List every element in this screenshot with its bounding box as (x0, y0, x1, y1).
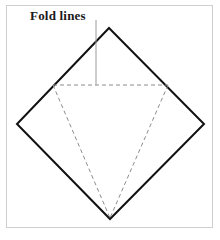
figure-container: Fold lines (0, 0, 220, 240)
figure-border (7, 6, 213, 228)
fold-lines-diagram (0, 0, 220, 240)
fold-lines-label: Fold lines (30, 8, 86, 23)
